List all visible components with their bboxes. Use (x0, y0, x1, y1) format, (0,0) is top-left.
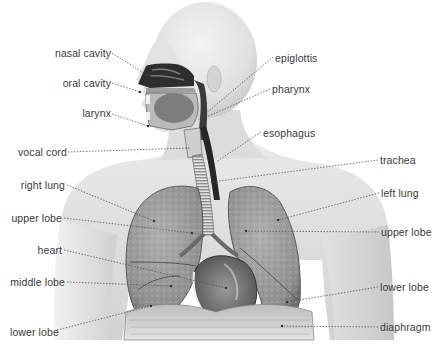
label-vocal-cord: vocal cord (18, 146, 67, 158)
label-upper-lobe-left-lung: upper lobe (381, 226, 432, 238)
label-upper-lobe-right-lung: upper lobe (11, 212, 62, 224)
label-right-lung: right lung (21, 179, 65, 191)
label-esophagus: esophagus (263, 127, 315, 139)
label-lower-lobe-right-lung: lower lobe (10, 326, 59, 338)
label-trachea: trachea (380, 154, 416, 166)
label-epiglottis: epiglottis (275, 52, 317, 64)
label-lower-lobe-left-lung: lower lobe (380, 281, 429, 293)
label-pharynx: pharynx (272, 83, 310, 95)
label-diaphragm: diaphragm (380, 321, 431, 333)
label-nasal-cavity: nasal cavity (55, 47, 111, 59)
tongue (154, 93, 194, 123)
label-middle-lobe: middle lobe (10, 276, 65, 288)
label-larynx: larynx (82, 107, 111, 119)
label-oral-cavity: oral cavity (63, 77, 111, 89)
respiratory-system-diagram: nasal cavity oral cavity larynx vocal co… (0, 0, 435, 351)
label-left-lung: left lung (381, 187, 419, 199)
ear (207, 66, 221, 92)
label-heart: heart (38, 244, 62, 256)
